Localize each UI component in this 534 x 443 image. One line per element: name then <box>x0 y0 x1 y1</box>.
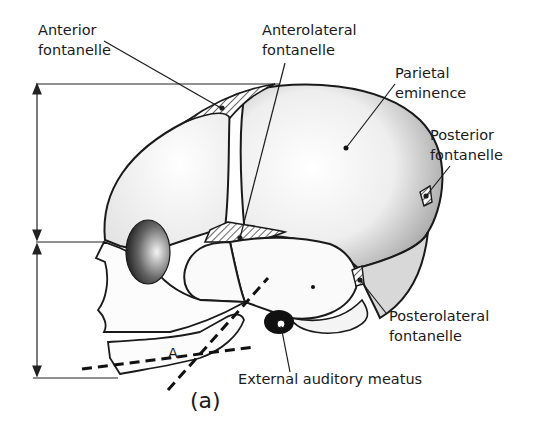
temporal-bone <box>230 238 357 319</box>
label-posterior-fontanelle: Posterior fontanelle <box>430 125 503 165</box>
figure-caption: (a) <box>190 388 221 413</box>
orbit <box>126 220 170 284</box>
label-external-auditory-meatus: External auditory meatus <box>238 369 422 389</box>
label-anterior-fontanelle: Anterior fontanelle <box>38 20 111 60</box>
label-parietal-eminence: Parietal eminence <box>395 63 466 103</box>
label-angle-a: A <box>168 343 178 363</box>
label-anterolateral-fontanelle: Anterolateral fontanelle <box>262 20 357 60</box>
label-posterolateral-fontanelle: Posterolateral fontanelle <box>389 306 489 346</box>
external-auditory-meatus-shape <box>264 310 294 334</box>
